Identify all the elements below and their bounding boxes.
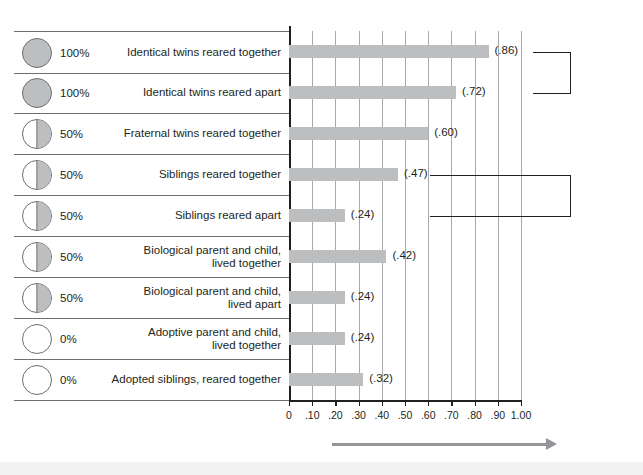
- bracket-bottom-line: [430, 216, 571, 217]
- bar-value-label: (.60): [434, 126, 458, 138]
- pie-circle-icon: [22, 283, 52, 313]
- bracket-bottom-line: [533, 93, 571, 94]
- genetic-overlap-percent: 100%: [60, 87, 89, 99]
- bar: [289, 373, 363, 386]
- bar: [289, 332, 345, 345]
- bar-value-label: (.72): [462, 85, 486, 97]
- pie-circle-icon: [22, 160, 52, 190]
- bar-chart-plot: (.86)(.72)(.60)(.47)(.24)(.42)(.24)(.24)…: [289, 26, 521, 400]
- axis-tick-label: .90: [490, 409, 505, 421]
- axis-tick: [359, 400, 360, 406]
- bar: [289, 127, 428, 140]
- axis-tick: [335, 400, 336, 406]
- axis-tick-label: .10: [305, 409, 320, 421]
- genetic-overlap-circle: [22, 242, 52, 272]
- bar-value-label: (.24): [351, 331, 375, 343]
- table-row: 50%Fraternal twins reared together: [14, 113, 289, 155]
- genetic-overlap-percent: 0%: [60, 374, 77, 386]
- bar-value-label: (.86): [495, 44, 519, 56]
- table-row: 50%Siblings reared apart: [14, 195, 289, 237]
- genetic-overlap-circle: [22, 38, 52, 68]
- relationship-label: Siblings reared apart: [175, 209, 281, 223]
- bracket-right-line: [570, 52, 571, 93]
- axis-tick: [475, 400, 476, 406]
- genetic-overlap-percent: 100%: [60, 47, 89, 59]
- axis-tick-label: .50: [398, 409, 413, 421]
- genetic-overlap-percent: 0%: [60, 333, 77, 345]
- relationship-label: Siblings reared together: [159, 168, 281, 182]
- axis-tick-label: .60: [421, 409, 436, 421]
- relationship-label: Biological parent and child, lived toget…: [144, 243, 281, 270]
- genetic-overlap-circle: [22, 78, 52, 108]
- axis-tick: [382, 400, 383, 406]
- table-row: 100%Identical twins reared together: [14, 31, 289, 74]
- axis-tick-label: 0: [286, 409, 292, 421]
- axis-tick-label: .30: [351, 409, 366, 421]
- relationship-label: Identical twins reared apart: [143, 86, 281, 100]
- bar: [289, 45, 489, 58]
- bar-value-label: (.24): [351, 208, 375, 220]
- axis-tick: [498, 400, 499, 406]
- axis-tick-label: .70: [444, 409, 459, 421]
- relationship-label: Adoptive parent and child, lived togethe…: [148, 325, 281, 352]
- table-row: 0%Adoptive parent and child, lived toget…: [14, 318, 289, 360]
- similarity-arrow-line: [332, 443, 548, 446]
- bar-value-label: (.24): [351, 290, 375, 302]
- bar-value-label: (.32): [369, 372, 393, 384]
- genetic-overlap-percent: 50%: [60, 251, 83, 263]
- genetic-overlap-percent: 50%: [60, 128, 83, 140]
- table-row: 50%Biological parent and child, lived ap…: [14, 277, 289, 319]
- pie-circle-icon: [22, 324, 52, 354]
- relationship-label: Adopted siblings, reared together: [112, 373, 281, 387]
- relationship-rows: 100%Identical twins reared together100%I…: [14, 31, 289, 400]
- bracket-top-line: [430, 175, 571, 176]
- genetic-overlap-circle: [22, 201, 52, 231]
- similarity-arrow-head-icon: [546, 438, 557, 450]
- genetic-overlap-circle: [22, 365, 52, 395]
- pie-circle-icon: [22, 365, 52, 395]
- genetic-overlap-circle: [22, 324, 52, 354]
- relationship-label: Fraternal twins reared together: [124, 127, 281, 141]
- pie-circle-icon: [22, 201, 52, 231]
- bar: [289, 86, 456, 99]
- axis-tick: [451, 400, 452, 406]
- bar: [289, 209, 345, 222]
- axis-tick-label: .40: [374, 409, 389, 421]
- axis-tick-label: 1.00: [511, 409, 531, 421]
- bar-value-label: (.42): [392, 249, 416, 261]
- relationship-label: Identical twins reared together: [127, 46, 281, 60]
- genetic-overlap-circle: [22, 283, 52, 313]
- table-row: 50%Biological parent and child, lived to…: [14, 236, 289, 278]
- axis-tick: [405, 400, 406, 406]
- table-row: 50%Siblings reared together: [14, 154, 289, 196]
- axis-tick: [428, 400, 429, 406]
- page-bottom-band: [0, 462, 643, 475]
- pie-circle-icon: [22, 119, 52, 149]
- bar: [289, 250, 386, 263]
- genetic-overlap-percent: 50%: [60, 169, 83, 181]
- axis-tick-label: .20: [328, 409, 343, 421]
- bar-value-label: (.47): [404, 167, 428, 179]
- iq-heritability-figure: 100%Identical twins reared together100%I…: [0, 0, 643, 475]
- pie-circle-icon: [22, 242, 52, 272]
- pie-circle-icon: [22, 38, 52, 68]
- relationship-label: Biological parent and child, lived apart: [144, 284, 281, 311]
- table-row: 100%Identical twins reared apart: [14, 72, 289, 114]
- genetic-overlap-circle: [22, 160, 52, 190]
- bar: [289, 168, 398, 181]
- genetic-overlap-percent: 50%: [60, 210, 83, 222]
- genetic-overlap-circle: [22, 119, 52, 149]
- pie-circle-icon: [22, 78, 52, 108]
- bracket-right-line: [570, 175, 571, 216]
- table-row: 0%Adopted siblings, reared together: [14, 359, 289, 401]
- genetic-overlap-percent: 50%: [60, 292, 83, 304]
- bracket-top-line: [533, 52, 571, 53]
- axis-tick-label: .80: [467, 409, 482, 421]
- axis-tick: [521, 400, 522, 406]
- axis-tick: [312, 400, 313, 406]
- bar: [289, 291, 345, 304]
- axis-tick: [289, 400, 290, 406]
